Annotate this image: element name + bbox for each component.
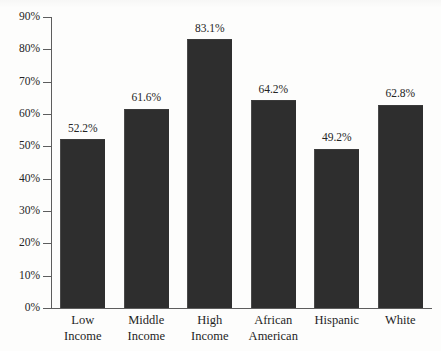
- scan-edge-artifact: [0, 0, 441, 8]
- x-axis-category-line: American: [242, 328, 306, 344]
- bar[interactable]: [60, 139, 105, 308]
- bar-value-label: 83.1%: [195, 23, 225, 35]
- x-axis-line: [51, 308, 432, 309]
- x-axis-category-line: Hispanic: [305, 312, 369, 328]
- bar-slot: 49.2%: [314, 17, 359, 308]
- bar-chart: 0%10%20%30%40%50%60%70%80%90% 52.2%61.6%…: [0, 0, 441, 351]
- bar[interactable]: [124, 109, 169, 308]
- x-axis-category-line: African: [242, 312, 306, 328]
- y-axis-tick-label: 10%: [0, 270, 40, 282]
- x-axis-category-line: Income: [51, 328, 115, 344]
- bar-value-label: 61.6%: [131, 92, 161, 104]
- bar[interactable]: [314, 149, 359, 308]
- y-axis-tick-label: 60%: [0, 108, 40, 120]
- bar-value-label: 64.2%: [258, 84, 288, 96]
- x-axis-category-line: Middle: [115, 312, 179, 328]
- x-axis-category-line: Low: [51, 312, 115, 328]
- bar-slot: 52.2%: [60, 17, 105, 308]
- x-axis-category-label: HighIncome: [178, 312, 242, 344]
- plot-area: 52.2%61.6%83.1%64.2%49.2%62.8%: [51, 17, 432, 308]
- x-axis-category-line: White: [369, 312, 433, 328]
- x-axis-category-line: High: [178, 312, 242, 328]
- bar[interactable]: [378, 105, 423, 308]
- y-axis-tick-label: 20%: [0, 237, 40, 249]
- x-axis-category-label: AfricanAmerican: [242, 312, 306, 344]
- y-axis-tick-label: 30%: [0, 205, 40, 217]
- bar-slot: 64.2%: [251, 17, 296, 308]
- y-axis-tick-label: 50%: [0, 140, 40, 152]
- x-axis-category-label: Hispanic: [305, 312, 369, 328]
- bar[interactable]: [251, 100, 296, 308]
- bar-slot: 61.6%: [124, 17, 169, 308]
- y-axis-tick-label: 0%: [0, 302, 40, 314]
- y-axis-tick-label: 90%: [0, 11, 40, 23]
- bar-value-label: 52.2%: [68, 123, 98, 135]
- x-axis-category-label: LowIncome: [51, 312, 115, 344]
- x-axis-category-label: MiddleIncome: [115, 312, 179, 344]
- y-axis-tick-label: 40%: [0, 173, 40, 185]
- x-axis-category-label: White: [369, 312, 433, 328]
- x-axis-category-line: Income: [178, 328, 242, 344]
- y-axis-tick-label: 70%: [0, 76, 40, 88]
- bar[interactable]: [187, 39, 232, 308]
- bar-slot: 62.8%: [378, 17, 423, 308]
- bar-value-label: 62.8%: [385, 88, 415, 100]
- bar-value-label: 49.2%: [322, 132, 352, 144]
- x-axis-category-line: Income: [115, 328, 179, 344]
- y-axis-tick-label: 80%: [0, 43, 40, 55]
- bar-slot: 83.1%: [187, 17, 232, 308]
